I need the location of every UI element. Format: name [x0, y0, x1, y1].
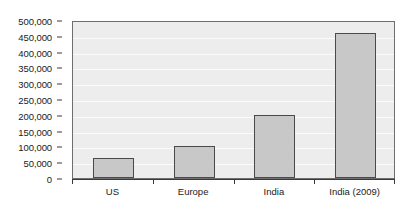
y-axis-tick-label: 400,000: [18, 47, 52, 58]
y-axis-tick-mark: [57, 36, 62, 37]
bar: [254, 115, 295, 178]
x-axis: USEuropeIndiaIndia (2009): [72, 186, 395, 206]
y-axis-tick-mark: [57, 131, 62, 132]
x-axis-tick-mark: [394, 179, 395, 184]
y-axis-tick-mark: [57, 52, 62, 53]
x-axis-tick-label: India: [264, 186, 285, 197]
x-axis-tick-mark: [314, 179, 315, 184]
x-axis-tick-mark: [72, 179, 73, 184]
y-axis-tick-mark: [57, 179, 62, 180]
x-axis-tick-label: US: [106, 186, 119, 197]
y-axis-tick-mark: [57, 84, 62, 85]
y-axis-tick-mark: [57, 68, 62, 69]
bars-group: [73, 22, 394, 178]
x-axis-tick-mark: [234, 179, 235, 184]
y-axis-tick-mark: [57, 100, 62, 101]
y-axis-tick-label: 0: [47, 174, 52, 185]
y-axis-tick-label: 500,000: [18, 16, 52, 27]
y-axis-tick-label: 300,000: [18, 79, 52, 90]
y-axis-tick-label: 250,000: [18, 95, 52, 106]
bar: [335, 33, 376, 178]
y-axis-tick-label: 50,000: [24, 158, 52, 169]
bar-chart-figure: 050,000100,000150,000200,000250,000300,0…: [0, 0, 414, 212]
y-axis-tick-mark: [57, 147, 62, 148]
y-axis-tick-label: 350,000: [18, 63, 52, 74]
y-axis-tick-label: 200,000: [18, 110, 52, 121]
y-axis-tick-label: 450,000: [18, 31, 52, 42]
y-axis-tick-mark: [57, 21, 62, 22]
y-axis-tick-label: 100,000: [18, 142, 52, 153]
y-axis-tick-mark: [57, 163, 62, 164]
bar: [174, 146, 215, 178]
x-axis-tick-mark: [153, 179, 154, 184]
x-axis-tick-label: India (2009): [329, 186, 380, 197]
y-axis-tick-label: 150,000: [18, 126, 52, 137]
y-axis: 050,000100,000150,000200,000250,000300,0…: [0, 21, 62, 179]
y-axis-tick-mark: [57, 115, 62, 116]
x-axis-tick-label: Europe: [178, 186, 209, 197]
bar: [93, 158, 134, 178]
plot-area: [72, 21, 395, 179]
x-axis-ticks: [72, 179, 395, 184]
